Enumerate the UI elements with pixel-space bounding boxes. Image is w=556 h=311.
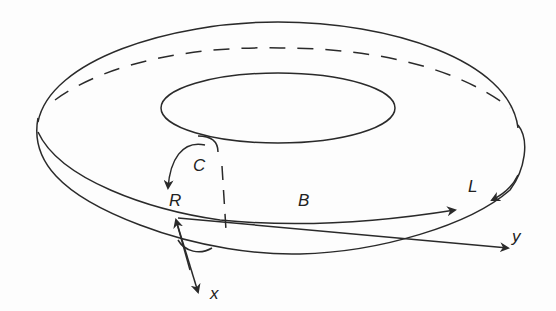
label-L: L <box>468 178 477 195</box>
torus-figure <box>0 0 556 311</box>
inner-hole <box>161 73 395 143</box>
label-B: B <box>298 192 309 209</box>
label-y: y <box>512 228 521 245</box>
label-R: R <box>169 192 181 209</box>
outer-contour-left <box>37 118 525 254</box>
equator-back-dashed <box>55 48 510 108</box>
equator-front <box>38 132 455 224</box>
arrow-L <box>492 175 518 200</box>
label-C: C <box>193 157 205 174</box>
torus-diagram: C R B L y x <box>0 0 556 311</box>
label-x: x <box>210 285 219 302</box>
outer-contour-top <box>38 22 518 128</box>
